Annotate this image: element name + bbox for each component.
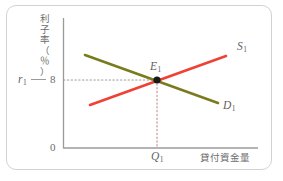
y-tick-value-8: 8	[50, 73, 56, 85]
equilibrium-quantity-label: Q1	[151, 150, 164, 162]
equilibrium-point-symbol: E	[150, 60, 157, 72]
x-axis-label: 貸付資金量	[200, 150, 250, 164]
figure-root: 利 子 率 （ ％ ） 貸付資金量 8 0 r1 E1 Q1 S1 D1	[0, 0, 283, 181]
supply-curve-label: S1	[237, 40, 247, 52]
demand-curve-subscript: 1	[231, 104, 235, 113]
equilibrium-point-dot	[153, 76, 160, 83]
equilibrium-rate-subscript: 1	[22, 78, 26, 87]
equilibrium-point-subscript: 1	[157, 65, 161, 74]
y-axis-label: 利 子 率 （ ％ ）	[37, 14, 53, 77]
equilibrium-rate-label: r1	[18, 73, 27, 85]
supply-curve-subscript: 1	[243, 45, 247, 54]
demand-curve-label: D1	[223, 99, 236, 111]
origin-label: 0	[50, 141, 56, 153]
equilibrium-point-label: E1	[150, 60, 161, 72]
supply-curve-symbol: S	[237, 40, 243, 52]
equilibrium-quantity-subscript: 1	[159, 155, 163, 164]
